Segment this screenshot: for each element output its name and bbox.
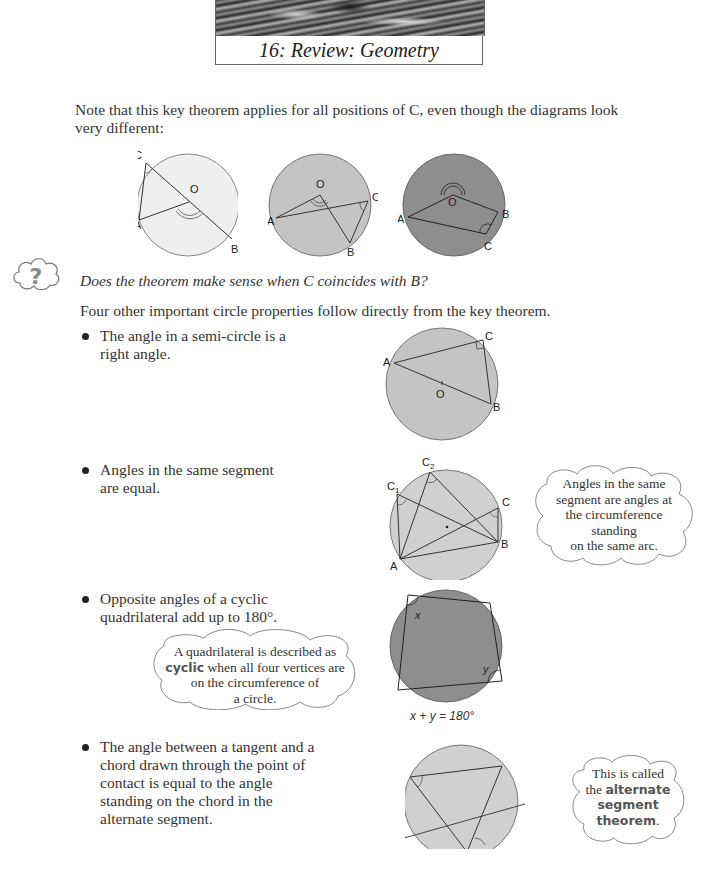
svg-text:C: C — [484, 240, 492, 252]
keyword-theorem: theorem — [597, 813, 657, 828]
svg-text:O: O — [316, 178, 325, 190]
key-theorem-diagram-3: O A B C — [398, 143, 518, 268]
same-segment-note-cloud: Angles in the same segment are angles at… — [527, 462, 699, 568]
svg-text:B: B — [493, 401, 500, 413]
key-theorem-diagram-1: C O A B — [138, 143, 238, 268]
keyword-cyclic: cyclic — [165, 660, 204, 675]
svg-text:B: B — [347, 246, 354, 258]
alternate-segment-note-cloud: This is called the alternate segment the… — [566, 752, 690, 846]
label-b: B — [231, 243, 238, 255]
chapter-title-box: 16: Review: Geometry — [215, 36, 483, 65]
key-theorem-diagram-2: O C A B — [268, 143, 378, 268]
property-semicircle: The angle in a semi-circle is a right an… — [100, 327, 350, 363]
cyclic-note-cloud: A quadrilateral is described as cyclic w… — [150, 626, 360, 710]
bullet-icon — [82, 596, 89, 603]
cyclic-quadrilateral-diagram: x y — [388, 588, 508, 706]
chapter-title: 16: Review: Geometry — [259, 39, 439, 61]
svg-text:C1: C1 — [387, 480, 400, 495]
alternate-segment-diagram — [405, 737, 535, 849]
header-banner-image — [215, 0, 485, 36]
svg-text:O: O — [448, 196, 457, 208]
svg-text:C: C — [372, 191, 378, 203]
intro-paragraph: Note that this key theorem applies for a… — [75, 101, 635, 137]
svg-text:C3: C3 — [502, 496, 510, 511]
bullet-icon — [82, 744, 89, 751]
keyword-alternate: alternate — [605, 782, 670, 797]
lead-in-paragraph: Four other important circle properties f… — [80, 302, 690, 320]
same-segment-note-text: Angles in the same segment are angles at… — [541, 476, 687, 554]
cyclic-note-text: A quadrilateral is described as cyclic w… — [160, 644, 350, 706]
question-text: Does the theorem make sense when C coinc… — [80, 272, 580, 290]
svg-text:O: O — [436, 388, 445, 400]
label-o: O — [190, 183, 199, 195]
svg-text:C2: C2 — [422, 456, 435, 471]
question-cloud-icon: ? — [10, 253, 62, 295]
cyclic-caption: x + y = 180° — [410, 709, 474, 723]
svg-text:A: A — [268, 215, 275, 227]
same-segment-diagram: C1 C2 C3 A B — [370, 450, 510, 580]
bullet-icon — [82, 467, 89, 474]
svg-text:x: x — [414, 609, 421, 621]
svg-text:B: B — [501, 538, 508, 550]
label-c: C — [138, 149, 142, 161]
svg-text:A: A — [383, 356, 391, 368]
svg-text:B: B — [502, 208, 509, 220]
svg-text:C: C — [485, 330, 493, 342]
alternate-segment-note-text: This is called the alternate segment the… — [574, 766, 682, 828]
property-alternate-segment: The angle between a tangent and a chord … — [100, 738, 370, 828]
bullet-icon — [82, 333, 89, 340]
semicircle-diagram: A C O B — [380, 325, 515, 443]
svg-text:A: A — [390, 560, 398, 572]
svg-text:A: A — [398, 213, 405, 225]
keyword-segment: segment — [597, 797, 658, 812]
svg-text:?: ? — [30, 264, 43, 289]
property-same-segment: Angles in the same segment are equal. — [100, 461, 350, 497]
property-cyclic-quadrilateral: Opposite angles of a cyclic quadrilatera… — [100, 590, 360, 626]
